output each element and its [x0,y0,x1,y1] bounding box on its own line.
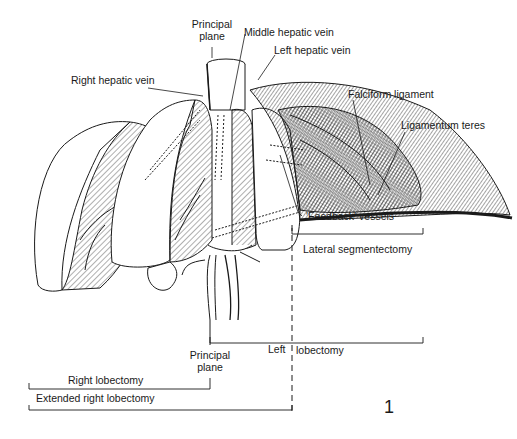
left-hepatic-vein-label: Left hepatic vein [274,44,350,56]
inferior-vena-cava [207,59,245,110]
right-hepatic-vein-label: Right hepatic vein [71,74,154,86]
right-lobectomy-label: Right lobectomy [68,374,143,386]
liver-diagram: Principal plane Middle hepatic vein Left… [0,0,517,439]
middle-hepatic-vein-path [215,115,224,180]
extended-right-lobectomy-label: Extended right lobectomy [36,392,154,404]
middle-hepatic-vein-label: Middle hepatic vein [244,26,334,38]
lateral-segmentectomy-label: Lateral segmentectomy [303,243,412,255]
principal-plane-bottom-line2: plane [186,361,234,373]
left-hepatic-vein-leader [258,55,275,80]
extended-right-lobectomy-bracket [29,405,292,410]
figure-number: 1 [384,397,394,418]
left-lobectomy-bracket [210,337,423,343]
principal-plane-top-line1: Principal [188,18,236,30]
principal-plane-bottom-label: Principal plane [186,349,234,373]
lateral-segmentectomy-bracket [292,228,423,234]
principal-plane-bottom-line1: Principal [186,349,234,361]
principal-plane-top-line2: plane [188,30,236,42]
falciform-ligament-label: Falciform ligament [348,88,434,100]
feedback-vessels-label: 'Feedback' vessels [306,210,394,222]
left-lobectomy-label-right: lobectomy [296,344,344,356]
principal-plane-top-label: Principal plane [188,18,236,42]
left-lobectomy-label-left: Left [268,343,286,355]
right-hepatic-vein-leader [148,88,203,96]
ligamentum-teres-label: Ligamentum teres [401,119,485,131]
